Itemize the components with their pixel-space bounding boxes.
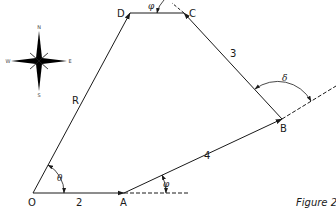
compass-south-label: S xyxy=(37,92,40,98)
compass-rose-icon: N S W E xyxy=(6,24,72,98)
link-AB xyxy=(124,119,282,193)
linkage-diagram: N S W E O A B C D 2 4 xyxy=(0,0,336,208)
compass-north-label: N xyxy=(37,24,41,30)
point-B-label: B xyxy=(280,123,287,134)
angle-phi-C-arc xyxy=(157,0,164,13)
angle-theta-label: θ xyxy=(57,173,63,183)
reference-line-C xyxy=(172,3,184,13)
point-O-label: O xyxy=(28,197,36,208)
angle-phi-C-label: φ xyxy=(148,1,155,11)
link-OD xyxy=(33,13,130,193)
angle-phi-A-label: φ xyxy=(163,179,170,189)
link-BC-length: 3 xyxy=(230,48,236,59)
compass-west-label: W xyxy=(6,58,11,64)
reference-line-B xyxy=(282,86,336,119)
link-OA-length: 2 xyxy=(76,197,82,208)
point-C-label: C xyxy=(189,8,196,19)
figure-caption: Figure 2 xyxy=(296,197,336,208)
angle-delta-label: δ xyxy=(282,73,287,83)
point-A-label: A xyxy=(120,197,127,208)
angle-delta-arc xyxy=(255,81,311,101)
point-D-label: D xyxy=(117,8,125,19)
link-OD-label: R xyxy=(72,95,79,106)
link-BC xyxy=(184,13,282,119)
link-AB-length: 4 xyxy=(204,150,210,161)
compass-east-label: E xyxy=(68,58,71,64)
